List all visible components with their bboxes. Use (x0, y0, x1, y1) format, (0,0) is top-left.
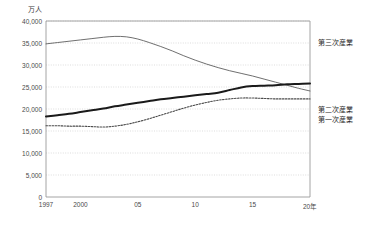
series-line-2 (46, 98, 310, 127)
x-tick-label: 20年 (303, 201, 317, 211)
y-tick-label: 10,000 (0, 150, 42, 157)
x-tick-label: 2000 (73, 201, 87, 208)
y-tick-label: 0 (0, 194, 42, 201)
y-tick-label: 30,000 (0, 62, 42, 69)
x-tick-label: 15 (249, 201, 256, 208)
line-chart: 万人 05,00010,00015,00020,00025,00030,0003… (0, 0, 381, 233)
series-line-1 (46, 83, 310, 116)
y-tick-label: 15,000 (0, 128, 42, 135)
y-tick-label: 35,000 (0, 40, 42, 47)
x-tick-label: 05 (134, 201, 141, 208)
legend-label-第一次産業: 第一次産業 (318, 114, 353, 124)
data-series (46, 36, 310, 127)
legend-label-第三次産業: 第三次産業 (318, 37, 353, 47)
y-tick-label: 20,000 (0, 106, 42, 113)
x-tick-label: 10 (192, 201, 199, 208)
legend-label-第二次産業: 第二次産業 (318, 104, 353, 114)
y-tick-label: 25,000 (0, 84, 42, 91)
series-line-0 (46, 36, 310, 91)
y-tick-label: 40,000 (0, 18, 42, 25)
x-tick-label: 1997 (39, 201, 53, 208)
y-tick-label: 5,000 (0, 172, 42, 179)
